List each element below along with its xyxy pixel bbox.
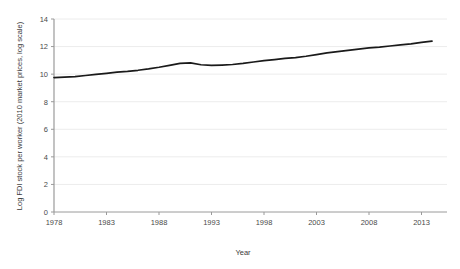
y-tick-label: 8 [44, 98, 48, 107]
x-tick-label: 1998 [256, 218, 273, 227]
y-tick-label: 12 [40, 42, 48, 51]
x-axis-ticks: 19781983198819931998200320082013 [46, 212, 430, 227]
y-tick-label: 2 [44, 180, 48, 189]
y-tick-label: 4 [44, 153, 48, 162]
chart-figure: 02468101214 1978198319881993199820032008… [0, 0, 460, 269]
x-tick-label: 1993 [203, 218, 220, 227]
x-tick-label: 2003 [308, 218, 325, 227]
x-tick-label: 2013 [413, 218, 430, 227]
y-tick-label: 6 [44, 125, 48, 134]
x-tick-label: 1978 [46, 218, 63, 227]
x-axis-title: Year [235, 248, 251, 257]
y-tick-label: 14 [40, 15, 48, 24]
line-chart: 02468101214 1978198319881993199820032008… [0, 0, 460, 269]
y-tick-label: 10 [40, 70, 48, 79]
y-tick-label: 0 [44, 208, 48, 217]
y-axis-title: Log FDI stock per worker (2010 market pr… [15, 21, 24, 210]
x-tick-label: 1983 [98, 218, 115, 227]
y-axis-ticks: 02468101214 [40, 15, 54, 217]
x-tick-label: 2008 [361, 218, 378, 227]
x-tick-label: 1988 [151, 218, 168, 227]
